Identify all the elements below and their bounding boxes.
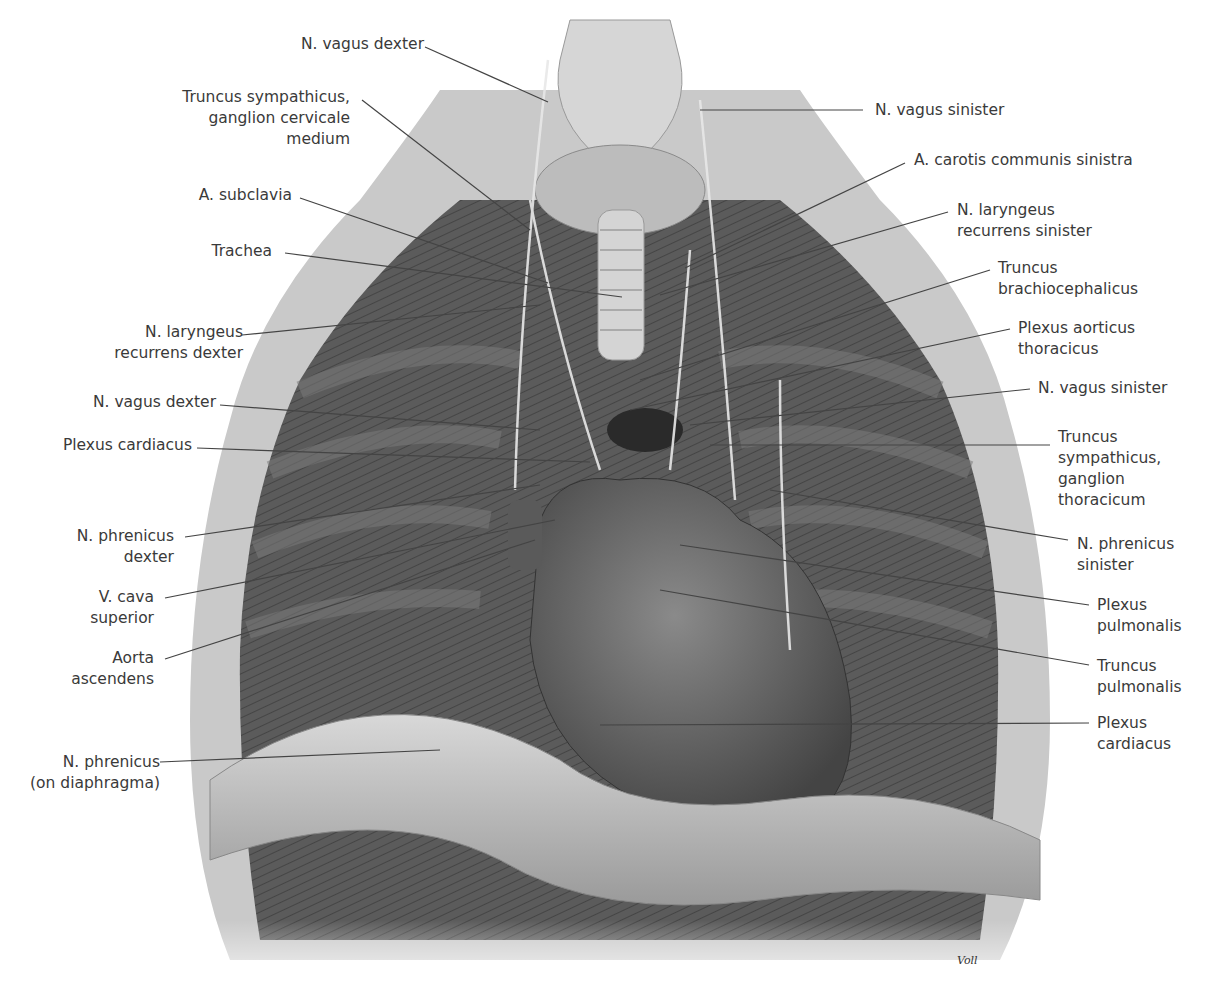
label-n-vagus-dexter-mid: N. vagus dexter (93, 392, 216, 413)
label-line: Plexus (1097, 595, 1182, 616)
label-line: recurrens dexter (114, 343, 243, 364)
label-n-phrenicus-dexter: N. phrenicus dexter (77, 526, 174, 568)
label-line: N. phrenicus (77, 526, 174, 547)
label-line: V. cava (90, 587, 154, 608)
label-line: ascendens (71, 669, 154, 690)
label-a-carotis-communis-sinistra: A. carotis communis sinistra (914, 150, 1133, 171)
label-n-laryngeus-recurrens-sinister: N. laryngeus recurrens sinister (957, 200, 1092, 242)
artist-signature: Voll (957, 954, 978, 967)
label-trachea: Trachea (212, 241, 272, 262)
label-line: Truncus (1097, 656, 1182, 677)
label-line: N. vagus sinister (875, 100, 1004, 121)
label-plexus-cardiacus-left: Plexus cardiacus (63, 435, 192, 456)
label-plexus-aorticus-thoracicus: Plexus aorticus thoracicus (1018, 318, 1135, 360)
label-line: pulmonalis (1097, 616, 1182, 637)
label-truncus-brachiocephalicus: Truncus brachiocephalicus (998, 258, 1138, 300)
trachea-shape (598, 210, 644, 360)
label-line: sinister (1077, 555, 1174, 576)
label-n-vagus-sinister-top: N. vagus sinister (875, 100, 1004, 121)
label-line: N. vagus dexter (301, 34, 424, 55)
label-plexus-cardiacus-right: Plexus cardiacus (1097, 713, 1171, 755)
label-line: thoracicum (1058, 490, 1161, 511)
label-line: Trachea (212, 241, 272, 262)
label-n-laryngeus-recurrens-dexter: N. laryngeus recurrens dexter (114, 322, 243, 364)
label-line: Aorta (71, 648, 154, 669)
label-line: A. carotis communis sinistra (914, 150, 1133, 171)
label-line: A. subclavia (199, 185, 292, 206)
label-line: thoracicus (1018, 339, 1135, 360)
label-line: cardiacus (1097, 734, 1171, 755)
label-truncus-sympathicus-cervicale: Truncus sympathicus, ganglion cervicale … (182, 87, 350, 150)
label-line: ganglion (1058, 469, 1161, 490)
label-line: N. laryngeus (957, 200, 1092, 221)
label-n-phrenicus-diaphragma: N. phrenicus (on diaphragma) (30, 752, 160, 794)
label-line: Truncus (1058, 427, 1161, 448)
label-line: sympathicus, (1058, 448, 1161, 469)
label-line: N. phrenicus (30, 752, 160, 773)
label-line: pulmonalis (1097, 677, 1182, 698)
label-line: Plexus cardiacus (63, 435, 192, 456)
label-line: dexter (77, 547, 174, 568)
larynx (558, 20, 682, 150)
vena-cava (508, 500, 542, 570)
label-line: N. laryngeus (114, 322, 243, 343)
label-a-subclavia: A. subclavia (199, 185, 292, 206)
label-v-cava-superior: V. cava superior (90, 587, 154, 629)
label-line: N. vagus sinister (1038, 378, 1167, 399)
label-plexus-pulmonalis: Plexus pulmonalis (1097, 595, 1182, 637)
label-aorta-ascendens: Aorta ascendens (71, 648, 154, 690)
label-n-vagus-sinister-mid: N. vagus sinister (1038, 378, 1167, 399)
label-line: superior (90, 608, 154, 629)
label-line: N. phrenicus (1077, 534, 1174, 555)
label-n-vagus-dexter-top: N. vagus dexter (301, 34, 424, 55)
label-line: recurrens sinister (957, 221, 1092, 242)
label-n-phrenicus-sinister: N. phrenicus sinister (1077, 534, 1174, 576)
label-line: Truncus sympathicus, (182, 87, 350, 108)
label-truncus-sympathicus-thoracicum: Truncus sympathicus, ganglion thoracicum (1058, 427, 1161, 511)
label-line: Truncus (998, 258, 1138, 279)
label-line: ganglion cervicale (182, 108, 350, 129)
label-line: (on diaphragma) (30, 773, 160, 794)
label-line: brachiocephalicus (998, 279, 1138, 300)
label-truncus-pulmonalis: Truncus pulmonalis (1097, 656, 1182, 698)
label-line: Plexus aorticus (1018, 318, 1135, 339)
label-line: medium (182, 129, 350, 150)
label-line: N. vagus dexter (93, 392, 216, 413)
label-line: Plexus (1097, 713, 1171, 734)
